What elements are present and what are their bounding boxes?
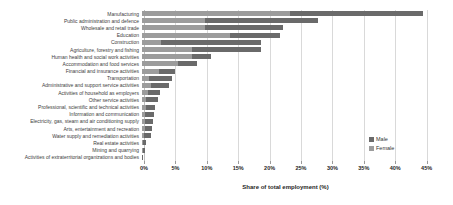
tick-mark bbox=[270, 161, 271, 164]
bar-row: Manufacturing bbox=[0, 10, 453, 17]
category-label: Activities of household as employers bbox=[0, 90, 142, 96]
bar-row: Accommodation and food services bbox=[0, 60, 453, 67]
category-label: Accommodation and food services bbox=[0, 61, 142, 67]
bar-track bbox=[142, 83, 453, 88]
category-label: Wholesale and retail trade bbox=[0, 25, 142, 31]
male-bar-segment bbox=[145, 126, 153, 131]
legend-label-female: Female bbox=[376, 145, 394, 151]
male-bar-segment bbox=[143, 148, 145, 153]
category-label: Manufacturing bbox=[0, 11, 142, 17]
bar-track bbox=[142, 155, 453, 160]
bar-row: Financial and insurance activities bbox=[0, 68, 453, 75]
tick-mark bbox=[175, 161, 176, 164]
category-label: Financial and insurance activities bbox=[0, 68, 142, 74]
bar-track bbox=[142, 76, 453, 81]
category-label: Human health and social work activities bbox=[0, 54, 142, 60]
female-bar-segment bbox=[142, 18, 205, 23]
category-label: Arts, entertainment and recreation bbox=[0, 126, 142, 132]
female-bar-segment bbox=[142, 54, 192, 59]
category-label: Transportation bbox=[0, 75, 142, 81]
tick-label: 30% bbox=[327, 165, 338, 171]
bar-track bbox=[142, 61, 453, 66]
bar-row: Human health and social work activities bbox=[0, 53, 453, 60]
bar-row: Activities of extraterritorial organizat… bbox=[0, 154, 453, 161]
bar-track bbox=[142, 140, 453, 145]
tick-label: 5% bbox=[171, 165, 179, 171]
bar-track bbox=[142, 90, 453, 95]
male-bar-segment bbox=[161, 40, 261, 45]
male-bar-segment bbox=[142, 155, 143, 160]
bar-track bbox=[142, 97, 453, 102]
category-label: Mining and quarrying bbox=[0, 147, 142, 153]
male-bar-segment bbox=[205, 18, 318, 23]
category-label: Administrative and support service activ… bbox=[0, 82, 142, 88]
female-bar-segment bbox=[142, 83, 151, 88]
category-label: Agriculture, forestry and fishing bbox=[0, 47, 142, 53]
bar-row: Administrative and support service activ… bbox=[0, 82, 453, 89]
bar-track bbox=[142, 133, 453, 138]
tick-mark bbox=[427, 161, 428, 164]
bar-track bbox=[142, 18, 453, 23]
x-axis-title: Share of total employment (%) bbox=[144, 184, 427, 190]
male-swatch-icon bbox=[369, 137, 374, 142]
bar-row: Electricity, gas, steam and air conditio… bbox=[0, 118, 453, 125]
category-label: Real estate activities bbox=[0, 140, 142, 146]
tick-mark bbox=[395, 161, 396, 164]
female-bar-segment bbox=[142, 69, 159, 74]
bar-row: Activities of household as employers bbox=[0, 89, 453, 96]
bar-track bbox=[142, 47, 453, 52]
stacked-bar-chart-employment-share: ManufacturingPublic administration and d… bbox=[0, 0, 453, 205]
bar-track bbox=[142, 105, 453, 110]
bar-row: Agriculture, forestry and fishing bbox=[0, 46, 453, 53]
male-bar-segment bbox=[146, 105, 155, 110]
bar-row: Transportation bbox=[0, 75, 453, 82]
male-bar-segment bbox=[149, 76, 172, 81]
bar-track bbox=[142, 148, 453, 153]
female-bar-segment bbox=[142, 40, 161, 45]
male-bar-segment bbox=[230, 33, 280, 38]
female-bar-segment bbox=[142, 61, 178, 66]
category-label: Construction bbox=[0, 39, 142, 45]
male-bar-segment bbox=[145, 119, 153, 124]
tick-label: 25% bbox=[295, 165, 306, 171]
category-label: Activities of extraterritorial organizat… bbox=[0, 154, 142, 160]
male-bar-segment bbox=[290, 11, 424, 16]
bar-track bbox=[142, 119, 453, 124]
tick-mark bbox=[144, 161, 145, 164]
male-bar-segment bbox=[151, 83, 169, 88]
legend-entry-female: Female bbox=[369, 145, 394, 151]
bar-row: Other service activities bbox=[0, 96, 453, 103]
tick-label: 45% bbox=[421, 165, 432, 171]
female-bar-segment bbox=[142, 33, 230, 38]
male-bar-segment bbox=[144, 133, 151, 138]
tick-label: 20% bbox=[264, 165, 275, 171]
bar-track bbox=[142, 69, 453, 74]
tick-label: 10% bbox=[201, 165, 212, 171]
category-label: Electricity, gas, steam and air conditio… bbox=[0, 118, 142, 124]
legend-entry-male: Male bbox=[369, 136, 394, 142]
male-bar-segment bbox=[148, 90, 160, 95]
tick-label: 15% bbox=[233, 165, 244, 171]
female-bar-segment bbox=[142, 25, 205, 30]
male-bar-segment bbox=[146, 97, 157, 102]
legend: Male Female bbox=[369, 136, 394, 151]
tick-label: 0% bbox=[140, 165, 148, 171]
bar-row: Professional, scientific and technical a… bbox=[0, 103, 453, 110]
tick-mark bbox=[207, 161, 208, 164]
male-bar-segment bbox=[178, 61, 196, 66]
category-label: Education bbox=[0, 32, 142, 38]
bar-track bbox=[142, 112, 453, 117]
bar-row: Information and communication bbox=[0, 111, 453, 118]
female-swatch-icon bbox=[369, 146, 374, 151]
male-bar-segment bbox=[192, 54, 211, 59]
bar-row: Arts, entertainment and recreation bbox=[0, 125, 453, 132]
female-bar-segment bbox=[142, 47, 192, 52]
category-label: Other service activities bbox=[0, 97, 142, 103]
bar-track bbox=[142, 11, 453, 16]
tick-label: 35% bbox=[358, 165, 369, 171]
male-bar-segment bbox=[159, 69, 175, 74]
female-bar-segment bbox=[142, 76, 149, 81]
category-label: Professional, scientific and technical a… bbox=[0, 104, 142, 110]
bar-track bbox=[142, 126, 453, 131]
category-label: Information and communication bbox=[0, 111, 142, 117]
